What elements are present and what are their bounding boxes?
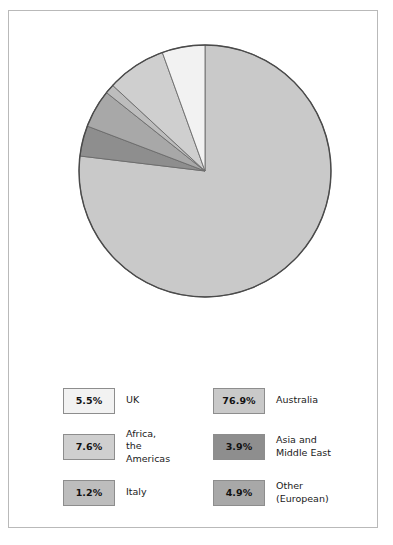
pie-chart <box>71 29 341 317</box>
legend-swatch: 3.9% <box>213 434 265 460</box>
legend-item: 4.9%Other (European) <box>213 471 363 514</box>
legend-label: Africa, the Americas <box>126 428 178 466</box>
legend-label: Asia and Middle East <box>276 434 331 459</box>
pie-slice-group <box>79 45 331 297</box>
legend-item: 7.6%Africa, the Americas <box>63 425 178 468</box>
pie-chart-area <box>9 11 393 341</box>
legend-swatch: 5.5% <box>63 388 115 414</box>
legend-label: UK <box>126 394 139 407</box>
legend-label: Australia <box>276 394 318 407</box>
legend-item: 3.9%Asia and Middle East <box>213 425 363 468</box>
legend-label: Italy <box>126 486 147 499</box>
legend-swatch: 76.9% <box>213 388 265 414</box>
legend-swatch: 1.2% <box>63 480 115 506</box>
legend-item: 1.2%Italy <box>63 471 178 514</box>
chart-legend: 5.5%UK76.9%Australia7.6%Africa, the Amer… <box>63 379 363 514</box>
legend-swatch: 4.9% <box>213 480 265 506</box>
chart-frame: 5.5%UK76.9%Australia7.6%Africa, the Amer… <box>8 10 378 528</box>
legend-item: 76.9%Australia <box>213 379 363 422</box>
legend-swatch: 7.6% <box>63 434 115 460</box>
legend-label: Other (European) <box>276 480 329 505</box>
legend-item: 5.5%UK <box>63 379 178 422</box>
